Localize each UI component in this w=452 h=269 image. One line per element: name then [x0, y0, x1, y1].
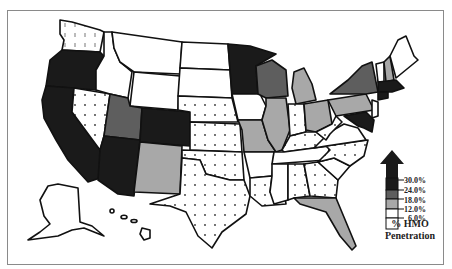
state-florida	[294, 198, 356, 250]
state-alaska	[28, 184, 104, 240]
state-washington	[60, 20, 104, 52]
state-new-jersey	[372, 100, 378, 118]
state-hawaii	[110, 209, 150, 240]
state-south-dakota	[178, 68, 232, 98]
legend-swatch-24	[386, 190, 398, 199]
state-indiana	[288, 104, 306, 136]
state-vermont	[376, 62, 384, 82]
state-wisconsin	[256, 60, 288, 98]
state-arizona	[98, 136, 140, 196]
state-connecticut	[378, 92, 388, 100]
legend-title-line1: % HMO	[378, 218, 442, 230]
state-north-dakota	[180, 42, 230, 70]
legend-title: % HMO Penetration	[378, 218, 442, 242]
state-wyoming	[130, 72, 180, 110]
state-michigan	[292, 68, 316, 104]
state-massachusetts	[378, 80, 404, 92]
legend-swatch-18	[386, 199, 398, 209]
legend-swatch-30	[386, 178, 398, 190]
legend-label-12: 12.0%	[404, 205, 426, 214]
legend-label-18: 18.0%	[404, 196, 426, 205]
legend-swatch-12	[386, 209, 398, 218]
state-colorado	[140, 108, 190, 146]
state-kansas	[190, 122, 242, 152]
legend-arrow-icon	[380, 150, 404, 178]
state-new-york	[330, 62, 378, 94]
state-new-mexico	[134, 142, 182, 194]
state-maine	[390, 36, 418, 78]
legend-label-24: 24.0%	[404, 186, 426, 195]
state-arkansas	[244, 152, 274, 178]
state-mississippi	[270, 164, 288, 204]
state-iowa	[232, 94, 266, 120]
legend-label-30: 30.0%	[404, 176, 426, 185]
legend-title-line2: Penetration	[378, 230, 442, 242]
